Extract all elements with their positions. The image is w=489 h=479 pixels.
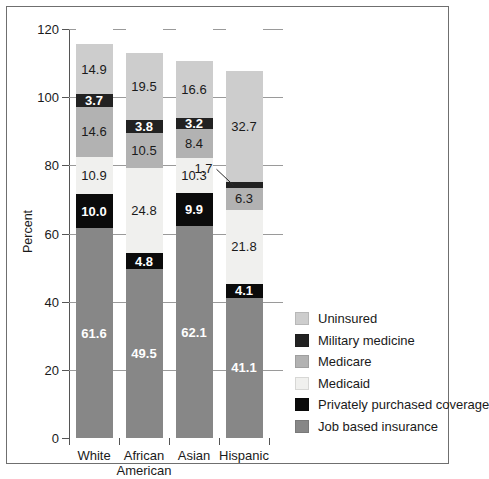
legend-item[interactable]: Uninsured	[295, 308, 489, 330]
legend-swatch-icon	[295, 377, 309, 390]
chart-legend: UninsuredMilitary medicineMedicareMedica…	[295, 308, 489, 437]
legend-swatch-icon	[295, 334, 309, 347]
legend-swatch-icon	[295, 420, 309, 433]
legend-label: Medicare	[318, 354, 371, 369]
x-tick	[119, 438, 120, 445]
y-tick-label: 100	[37, 90, 59, 105]
legend-label: Military medicine	[318, 333, 415, 348]
y-tick-label: 20	[45, 362, 59, 377]
y-tick	[62, 302, 69, 303]
legend-swatch-icon	[295, 312, 309, 325]
y-tick	[62, 29, 69, 30]
category-label: AfricanAmerican	[117, 449, 172, 479]
category-label-line: Hispanic	[219, 449, 269, 464]
y-tick-label: 40	[45, 294, 59, 309]
legend-item[interactable]: Medicaid	[295, 373, 489, 395]
category-label-line: Asian	[178, 449, 211, 464]
y-tick	[62, 234, 69, 235]
y-tick-label: 60	[45, 226, 59, 241]
callout-value-label: 1.7	[195, 161, 213, 176]
y-tick	[62, 97, 69, 98]
legend-swatch-icon	[295, 355, 309, 368]
y-tick-label: 0	[52, 431, 59, 446]
y-tick	[62, 165, 69, 166]
category-label: White	[77, 449, 110, 464]
legend-swatch-icon	[295, 398, 309, 411]
category-label-line: White	[77, 449, 110, 464]
legend-label: Uninsured	[318, 311, 377, 326]
category-label: Asian	[178, 449, 211, 464]
category-label-line: African	[117, 449, 172, 464]
legend-item[interactable]: Job based insurance	[295, 416, 489, 438]
x-tick	[219, 438, 220, 445]
y-tick-label: 120	[37, 22, 59, 37]
y-tick	[62, 370, 69, 371]
x-tick	[169, 438, 170, 445]
callout-leader-line	[69, 29, 269, 438]
legend-item[interactable]: Privately purchased coverage	[295, 394, 489, 416]
y-tick	[62, 438, 69, 439]
legend-label: Privately purchased coverage	[318, 397, 489, 412]
chart-frame: Percent 020406080100120 White61.610.010.…	[6, 6, 449, 464]
x-tick	[69, 438, 70, 445]
legend-label: Medicaid	[318, 376, 370, 391]
legend-label: Job based insurance	[318, 419, 438, 434]
legend-item[interactable]: Military medicine	[295, 330, 489, 352]
legend-item[interactable]: Medicare	[295, 351, 489, 373]
y-tick-label: 80	[45, 158, 59, 173]
category-label-line: American	[117, 464, 172, 479]
x-tick	[269, 438, 270, 445]
plot-area: 020406080100120 White61.610.010.914.63.7…	[69, 29, 269, 438]
y-axis-title: Percent	[21, 210, 35, 253]
category-label: Hispanic	[219, 449, 269, 464]
